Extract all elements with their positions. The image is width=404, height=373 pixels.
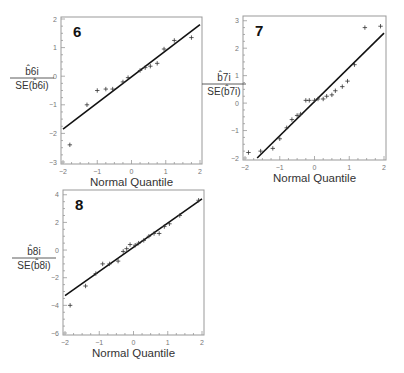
- y-tick-label: 1: [235, 72, 239, 79]
- x-tick-label: 2: [200, 339, 204, 346]
- x-tick-label: −1: [93, 168, 101, 175]
- x-tick-label: −2: [241, 164, 249, 171]
- reference-line: [257, 33, 384, 158]
- data-point-plus-marker: [321, 97, 325, 101]
- panel-number: 8: [75, 196, 83, 213]
- x-tick-label: 1: [166, 339, 170, 346]
- data-point-plus-marker: [271, 146, 275, 150]
- data-point-plus-marker: [83, 284, 87, 288]
- y-axis-label: b̂8iSE(b̂8i): [12, 244, 56, 271]
- qq-plot-7: −2−1012−2−10123Normal Quantileb̂7iSE(b̂7…: [202, 16, 386, 184]
- data-point-plus-marker: [172, 38, 176, 42]
- y-axis-label: b̂6iSE(b̂6i): [10, 64, 54, 91]
- y-tick-label: 0: [55, 247, 59, 254]
- y-label-numerator: b̂8i: [27, 244, 40, 257]
- y-tick-label: 0: [53, 73, 57, 80]
- y-tick-label: −6: [51, 330, 59, 337]
- reference-line: [63, 25, 200, 129]
- reference-line: [65, 199, 202, 296]
- y-tick-label: 1: [53, 44, 57, 51]
- x-axis-label: Normal Quantile: [92, 347, 175, 359]
- data-point-plus-marker: [104, 87, 108, 91]
- data-point-plus-marker: [189, 35, 193, 39]
- y-label-denominator: SE(b̂8i): [17, 258, 50, 271]
- data-point-plus-marker: [246, 150, 250, 154]
- data-point-plus-marker: [95, 88, 99, 92]
- data-point-plus-marker: [128, 242, 132, 246]
- y-tick-label: 4: [55, 191, 59, 198]
- y-tick-label: 2: [55, 219, 59, 226]
- y-tick-label: −3: [49, 159, 57, 166]
- data-point-plus-marker: [340, 84, 344, 88]
- y-axis-label: b̂7iSE(b̂7i): [202, 70, 246, 97]
- data-point-plus-marker: [155, 61, 159, 65]
- panel-number: 6: [73, 23, 81, 40]
- x-axis-label: Normal Quantile: [273, 172, 356, 184]
- data-point-plus-marker: [363, 25, 367, 29]
- data-point-plus-marker: [68, 303, 72, 307]
- qq-plots-figure: −2−1012−3−2−1012Normal Quantileb̂6iSE(b̂…: [0, 0, 404, 373]
- x-tick-label: 0: [130, 168, 134, 175]
- y-tick-label: 3: [235, 17, 239, 24]
- data-point-plus-marker: [157, 231, 161, 235]
- panel-number: 7: [255, 22, 263, 39]
- y-label-denominator: SE(b̂6i): [15, 78, 48, 91]
- y-tick-label: −2: [51, 274, 59, 281]
- x-tick-label: −2: [61, 339, 69, 346]
- y-tick-label: 2: [235, 45, 239, 52]
- qq-plot-8: −2−1012−6−4−2024Normal Quantileb̂8iSE(b̂…: [12, 190, 204, 359]
- x-tick-label: −1: [276, 164, 284, 171]
- x-tick-label: 0: [313, 164, 317, 171]
- y-tick-label: 0: [235, 100, 239, 107]
- data-point-plus-marker: [100, 262, 104, 266]
- data-point-plus-marker: [85, 103, 89, 107]
- data-point-plus-marker: [330, 93, 334, 97]
- y-label-denominator: SE(b̂7i): [207, 84, 240, 97]
- x-tick-label: 2: [198, 168, 202, 175]
- x-tick-label: 0: [132, 339, 136, 346]
- y-tick-label: −1: [231, 127, 239, 134]
- data-point-plus-marker: [333, 89, 337, 93]
- qq-plot-6: −2−1012−3−2−1012Normal Quantileb̂6iSE(b̂…: [10, 16, 202, 189]
- data-point-plus-marker: [324, 94, 328, 98]
- y-tick-label: −2: [231, 155, 239, 162]
- y-tick-label: −1: [49, 101, 57, 108]
- data-point-plus-marker: [68, 143, 72, 147]
- x-tick-label: 1: [347, 164, 351, 171]
- data-point-plus-marker: [121, 80, 125, 84]
- x-tick-label: 2: [382, 164, 386, 171]
- y-tick-label: −4: [51, 302, 59, 309]
- plot-frame: [243, 16, 386, 160]
- x-tick-label: −2: [59, 168, 67, 175]
- data-point-plus-marker: [345, 79, 349, 83]
- y-tick-label: −2: [49, 130, 57, 137]
- data-point-plus-marker: [290, 117, 294, 121]
- x-tick-label: 1: [164, 168, 168, 175]
- y-label-numerator: b̂7i: [217, 70, 230, 83]
- data-point-plus-marker: [378, 24, 382, 28]
- x-tick-label: −1: [95, 339, 103, 346]
- x-axis-label: Normal Quantile: [90, 176, 173, 188]
- y-label-numerator: b̂6i: [25, 64, 38, 77]
- data-point-plus-marker: [307, 98, 311, 102]
- y-tick-label: 2: [53, 16, 57, 23]
